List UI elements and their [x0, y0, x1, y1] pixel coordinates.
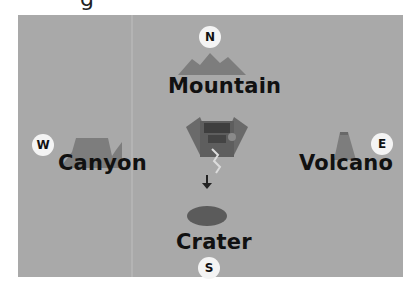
mountain-icon: [178, 51, 246, 75]
map-divider: [131, 15, 133, 277]
landmark-label-east: Volcano: [299, 151, 393, 175]
compass-north: N: [199, 26, 221, 48]
landmark-label-south: Crater: [176, 230, 252, 254]
landmark-label-west: Canyon: [58, 151, 147, 175]
compass-map: N Mountain W Canyon E Volcano Crater S: [18, 15, 403, 277]
landmark-label-north: Mountain: [168, 74, 281, 98]
compass-west: W: [32, 134, 54, 156]
rover-lander-icon: [186, 115, 248, 175]
title-fragment: g: [80, 0, 94, 11]
crater-icon: [186, 205, 228, 227]
down-arrow-icon: [202, 175, 212, 189]
compass-south: S: [198, 257, 220, 279]
